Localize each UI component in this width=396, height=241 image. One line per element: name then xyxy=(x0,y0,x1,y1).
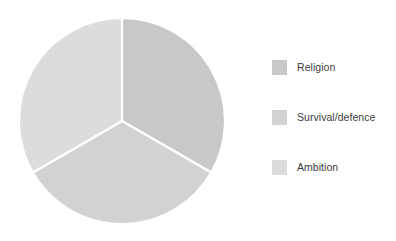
pie-chart-svg xyxy=(18,17,226,225)
legend-item-survival-defence[interactable]: Survival/defence xyxy=(272,105,392,155)
pie-chart-figure: Religion Survival/defence Ambition xyxy=(0,0,396,241)
chart-title xyxy=(6,0,296,5)
legend-label-ambition: Ambition xyxy=(297,155,338,180)
legend-label-survival-defence: Survival/defence xyxy=(297,105,375,130)
legend-swatch-ambition xyxy=(272,160,287,175)
legend-item-ambition[interactable]: Ambition xyxy=(272,155,392,205)
pie-chart-plot-area xyxy=(18,17,226,225)
legend-label-religion: Religion xyxy=(297,55,335,80)
legend-item-religion[interactable]: Religion xyxy=(272,55,392,105)
chart-legend: Religion Survival/defence Ambition xyxy=(272,55,392,205)
legend-swatch-survival-defence xyxy=(272,110,287,125)
legend-swatch-religion xyxy=(272,60,287,75)
